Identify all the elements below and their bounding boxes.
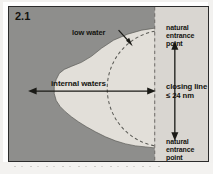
internal-waters-label: internal waters [51,80,106,89]
low-water-label: low water [72,29,105,37]
figure-2-1: 2.1 low water internal waters closing li… [0,0,213,174]
figure-plate: 2.1 low water internal waters closing li… [3,2,208,162]
natural-entrance-point-bottom-label: natural entrance point [166,138,209,162]
natural-entrance-point-top-label: natural entrance point [166,24,209,48]
closing-line-label: closing line ≤ 24 nm [166,83,209,101]
closing-line-distance-text: ≤ 24 nm [166,91,194,100]
closing-line-text: closing line [166,82,207,91]
scan-artifact-band [0,163,213,174]
figure-frame: 2.1 low water internal waters closing li… [8,6,209,162]
figure-number: 2.1 [15,11,30,23]
